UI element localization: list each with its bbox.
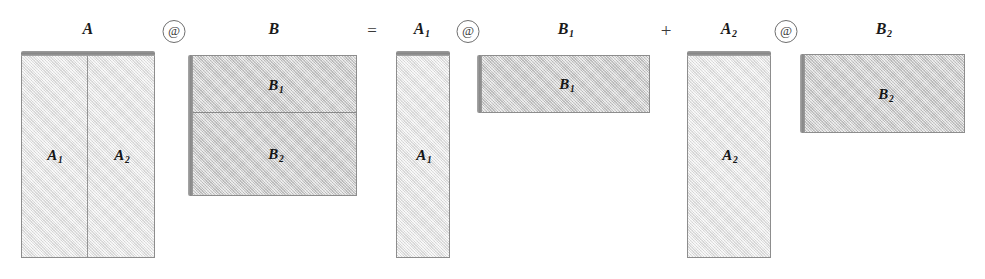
matrix-decomposition-diagram: A @ B A1 A2 B1 B2 = A1 @: [0, 0, 985, 279]
label-matrix-b2: B2: [876, 20, 893, 39]
matrix-b1-left-edge: [477, 55, 482, 113]
matrix-b2: B2: [804, 54, 965, 133]
label-matrix-b1: B1: [558, 20, 575, 39]
block-caption-b2-term: B2: [878, 86, 893, 104]
block-caption-a1-term: A1: [416, 147, 431, 165]
matrix-a1-top-edge: [396, 51, 450, 56]
block-caption-b1: B1: [268, 77, 283, 95]
block-caption-b2: B2: [268, 146, 283, 164]
block-caption-a2: A2: [114, 147, 129, 165]
matrix-b2-left-edge: [800, 54, 805, 133]
label-matrix-b: B: [269, 20, 280, 38]
operator-plus: +: [661, 20, 672, 42]
operator-at-1: @: [163, 20, 186, 43]
matrix-b1: B1: [481, 55, 650, 113]
block-caption-b1-term: B1: [559, 76, 574, 94]
matrix-a1: A1: [396, 55, 450, 258]
label-matrix-a2: A2: [721, 20, 738, 39]
label-matrix-a: A: [83, 20, 94, 38]
block-caption-a2-term: A2: [722, 147, 737, 165]
matrix-a2: A2: [687, 55, 771, 258]
matrix-a-vertical-split: [87, 56, 88, 257]
block-caption-a1: A1: [47, 147, 62, 165]
label-matrix-a1: A1: [414, 20, 431, 39]
matrix-b-horizontal-split: [193, 112, 356, 113]
matrix-b: B1 B2: [192, 55, 357, 196]
matrix-a: A1 A2: [21, 55, 155, 258]
matrix-a2-top-edge: [687, 51, 771, 56]
matrix-a-top-edge: [21, 51, 155, 56]
matrix-b-left-edge: [188, 55, 193, 196]
operator-at-3: @: [775, 20, 798, 43]
operator-at-2: @: [457, 20, 480, 43]
operator-equals: =: [367, 21, 377, 41]
